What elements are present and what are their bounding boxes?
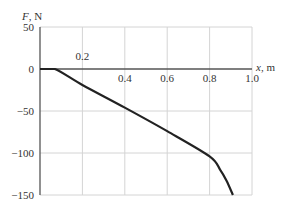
force-displacement-chart: 500−50−100−1500.20.40.60.81.0 F, N x, m bbox=[0, 0, 288, 207]
y-tick-label: 0 bbox=[29, 63, 35, 75]
y-tick-label: −150 bbox=[11, 189, 34, 201]
y-axis-label: F, N bbox=[21, 10, 42, 22]
x-tick-label: 0.6 bbox=[160, 72, 174, 84]
x-tick-label: 1.0 bbox=[245, 72, 259, 84]
y-tick-label: −50 bbox=[17, 105, 35, 117]
y-tick-label: 50 bbox=[23, 21, 35, 33]
force-curve bbox=[40, 69, 233, 195]
x-tick-label: 0.2 bbox=[76, 50, 90, 62]
x-tick-label: 0.8 bbox=[203, 72, 217, 84]
x-tick-label: 0.4 bbox=[118, 72, 132, 84]
x-axis-label: x, m bbox=[255, 61, 275, 73]
y-tick-label: −100 bbox=[11, 147, 34, 159]
